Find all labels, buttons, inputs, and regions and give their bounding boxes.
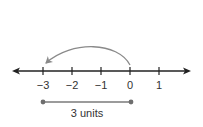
distance-segment: 3 units bbox=[41, 100, 134, 119]
number-line-diagram: −3 −2 −1 0 1 3 units bbox=[0, 0, 203, 127]
segment-endpoint-dot bbox=[41, 100, 46, 105]
tick-label-1: 1 bbox=[156, 79, 162, 91]
tick-labels: −3 −2 −1 0 1 bbox=[37, 79, 162, 91]
segment-endpoint-dot bbox=[129, 100, 134, 105]
tick-label-neg1: −1 bbox=[95, 79, 108, 91]
curved-arrow-left-icon bbox=[46, 47, 130, 65]
distance-label: 3 units bbox=[71, 107, 104, 119]
tick-label-neg3: −3 bbox=[37, 79, 50, 91]
tick-label-neg2: −2 bbox=[66, 79, 79, 91]
tick-label-0: 0 bbox=[127, 79, 133, 91]
